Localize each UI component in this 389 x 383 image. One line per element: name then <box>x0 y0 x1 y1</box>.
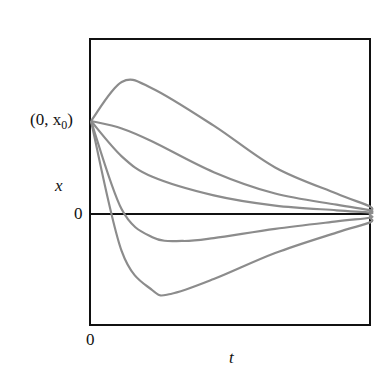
x-axis-label: t <box>229 348 234 368</box>
x-zero-tick-label: 0 <box>86 330 95 350</box>
solution-curve-3 <box>91 121 372 214</box>
solution-curve-5 <box>91 121 372 296</box>
solution-curves <box>91 80 372 296</box>
solution-curve-1 <box>91 80 372 215</box>
y-axis-label: x <box>55 176 63 196</box>
initial-point-label: (0, x0) <box>30 110 73 133</box>
plot-frame <box>90 39 370 325</box>
y-zero-tick-label: 0 <box>74 204 83 224</box>
